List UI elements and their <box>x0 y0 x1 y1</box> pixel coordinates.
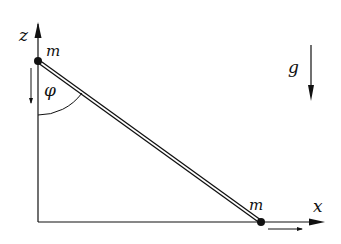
mass-bottom-label: m <box>249 196 263 214</box>
pendulum-rod-diagram: z m φ g m x <box>0 0 341 244</box>
mass-top-label: m <box>46 42 60 60</box>
z-axis <box>35 22 42 222</box>
gravity-arrowhead <box>308 85 314 101</box>
rod <box>38 61 261 222</box>
angle-label: φ <box>44 80 56 100</box>
x-axis <box>38 219 325 226</box>
mass-bottom-dot <box>257 218 265 226</box>
x-axis-label: x <box>313 196 323 216</box>
z-axis-label: z <box>18 25 29 45</box>
mass-top-dot <box>34 57 42 65</box>
gravity-label: g <box>288 57 299 77</box>
